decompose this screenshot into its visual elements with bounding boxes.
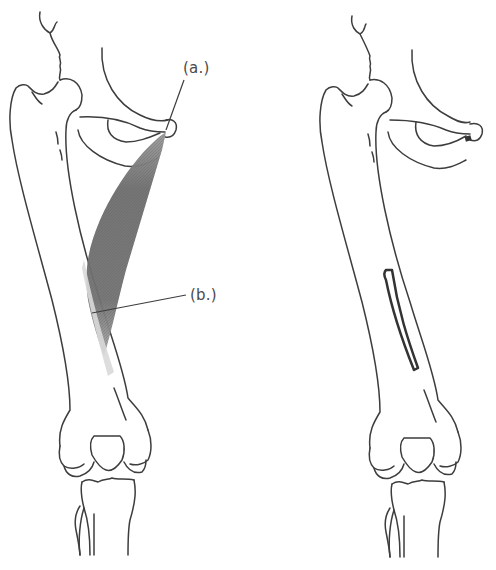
- label-b: (b.): [190, 286, 217, 304]
- femur-lateral: [10, 82, 70, 446]
- femoral-head: [60, 79, 82, 110]
- right-panel: [248, 0, 496, 570]
- tibia-plateau: [82, 478, 134, 482]
- pelvis-curve: [102, 48, 168, 121]
- label-a: (a.): [183, 59, 209, 77]
- sacrum-edge: [40, 12, 61, 80]
- left-panel: (a.) (b.): [0, 0, 248, 570]
- patella: [91, 436, 124, 470]
- tibia: [79, 480, 135, 555]
- femur-with-muscle-illustration: [0, 0, 248, 570]
- insertion-outline: [385, 270, 419, 370]
- femur-attachment-illustration: [248, 0, 496, 570]
